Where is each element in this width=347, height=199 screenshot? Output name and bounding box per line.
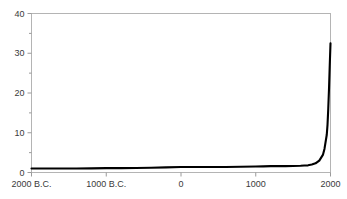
x-tick-label: 2000 B.C. [11,179,51,189]
x-tick-label: 0 [178,179,183,189]
x-tick-label: 1000 [246,179,266,189]
population-line-chart: 010203040 2000 B.C.1000 B.C.010002000 [0,0,347,199]
y-tick-label: 0 [19,168,24,178]
y-tick-label: 10 [14,128,24,138]
y-tick-label: 20 [14,88,24,98]
x-tick-label: 2000 [320,179,340,189]
x-tick-label: 1000 B.C. [86,179,126,189]
y-tick-label: 30 [14,48,24,58]
y-tick-label: 40 [14,9,24,19]
chart-container: 010203040 2000 B.C.1000 B.C.010002000 [0,0,347,199]
